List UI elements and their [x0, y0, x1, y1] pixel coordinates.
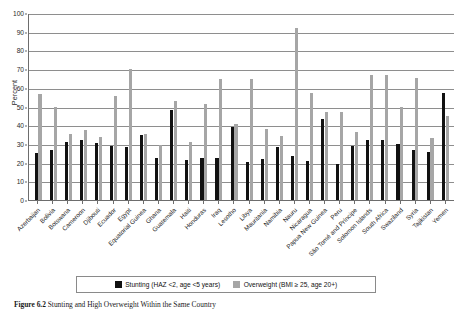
bar-group	[121, 14, 136, 200]
y-axis-tick-label: 40	[17, 123, 24, 130]
bar-group	[227, 14, 242, 200]
figure-container: Percent 0102030405060708090100 Azerbaija…	[0, 0, 458, 318]
x-axis-tickmark	[392, 201, 407, 204]
y-axis-tickmark	[25, 32, 28, 33]
bar-overweight	[385, 75, 388, 200]
bar-overweight	[189, 142, 192, 200]
bar-group	[423, 14, 438, 200]
bar-overweight	[144, 134, 147, 200]
bar-stunting	[381, 140, 384, 200]
bar-overweight	[400, 107, 403, 200]
bar-overweight	[325, 112, 328, 200]
bar-overweight	[129, 69, 132, 200]
x-axis-tickmarks	[28, 201, 454, 204]
x-axis-tickmark	[301, 201, 316, 204]
bar-overweight	[114, 96, 117, 200]
bar-group	[211, 14, 226, 200]
bar-stunting	[412, 150, 415, 200]
bar-overweight	[159, 145, 162, 200]
y-axis-tick-label: 20	[17, 160, 24, 167]
bar-group	[166, 14, 181, 200]
bar-stunting	[231, 127, 234, 200]
x-axis-tickmark	[271, 201, 286, 204]
legend-swatch	[233, 281, 240, 288]
bar-group	[287, 14, 302, 200]
x-axis-tickmark	[422, 201, 437, 204]
y-axis-tick-label: 70	[17, 67, 24, 74]
x-axis-tickmark	[317, 201, 332, 204]
bar-group	[392, 14, 407, 200]
bar-group	[438, 14, 453, 200]
bar-group	[347, 14, 362, 200]
bar-overweight	[415, 78, 418, 200]
y-axis-tick-label: 90	[17, 29, 24, 36]
bar-overweight	[310, 93, 313, 200]
x-axis-tickmark	[241, 201, 256, 204]
x-axis-tickmark	[165, 201, 180, 204]
bar-group	[242, 14, 257, 200]
legend-entry: Stunting (HAZ <2, age <5 years)	[115, 281, 220, 288]
bar-overweight	[54, 107, 57, 201]
legend-label: Stunting (HAZ <2, age <5 years)	[125, 281, 220, 288]
chart-grid	[28, 14, 454, 201]
bar-overweight	[204, 104, 207, 200]
y-axis-tickmark	[25, 144, 28, 145]
bar-overweight	[174, 101, 177, 200]
bar-group	[317, 14, 332, 200]
bar-group	[272, 14, 287, 200]
bar-stunting	[215, 158, 218, 200]
bar-stunting	[95, 143, 98, 200]
bar-stunting	[396, 144, 399, 200]
bar-stunting	[200, 158, 203, 200]
bar-group	[91, 14, 106, 200]
x-axis-tickmark	[286, 201, 301, 204]
x-axis-tickmark	[226, 201, 241, 204]
x-axis-category-labels: AzerbaijanBoliviaBotswanaCameroonDjibout…	[28, 205, 454, 267]
chart-plot-area: Percent 0102030405060708090100 Azerbaija…	[0, 0, 458, 210]
bar-overweight	[69, 134, 72, 200]
x-axis-tickmark	[407, 201, 422, 204]
bar-overweight	[430, 138, 433, 200]
y-axis-tick-label: 30	[17, 142, 24, 149]
y-axis-tick-label: 0	[20, 198, 24, 205]
x-axis-tickmark	[75, 201, 90, 204]
bar-stunting	[65, 142, 68, 200]
x-axis-tickmark	[45, 201, 60, 204]
y-axis-tick-label: 60	[17, 86, 24, 93]
bar-groups	[29, 14, 454, 200]
bar-group	[362, 14, 377, 200]
bar-stunting	[366, 140, 369, 200]
x-axis-tickmark	[90, 201, 105, 204]
y-axis-tickmark	[25, 14, 28, 15]
bar-stunting	[50, 150, 53, 200]
x-axis-tickmark	[332, 201, 347, 204]
bar-stunting	[246, 162, 249, 200]
y-axis-tickmark	[25, 182, 28, 183]
bar-overweight	[446, 116, 449, 200]
legend-label: Overweight (BMI ≥ 25, age 20+)	[244, 281, 338, 288]
bar-group	[257, 14, 272, 200]
caption-text: Stunting and High Overweight Within the …	[48, 300, 216, 309]
bar-stunting	[261, 159, 264, 200]
x-axis-tickmark	[150, 201, 165, 204]
bar-group	[151, 14, 166, 200]
bar-overweight	[234, 124, 237, 200]
x-axis-tickmark	[211, 201, 226, 204]
bar-overweight	[340, 112, 343, 200]
y-axis-tick-label: 100	[13, 11, 24, 18]
bar-overweight	[84, 130, 87, 200]
y-axis-tickmark	[25, 70, 28, 71]
y-axis-tick-label: 10	[17, 179, 24, 186]
bar-overweight	[250, 79, 253, 200]
bar-stunting	[306, 161, 309, 200]
bar-group	[196, 14, 211, 200]
x-axis-tickmark	[377, 201, 392, 204]
bar-stunting	[35, 153, 38, 200]
bar-overweight	[265, 129, 268, 200]
figure-caption: Figure 6.2 Stunting and High Overweight …	[14, 300, 448, 310]
bar-overweight	[280, 136, 283, 200]
bar-group	[332, 14, 347, 200]
bar-stunting	[276, 147, 279, 200]
bar-group	[181, 14, 196, 200]
bar-stunting	[110, 146, 113, 200]
